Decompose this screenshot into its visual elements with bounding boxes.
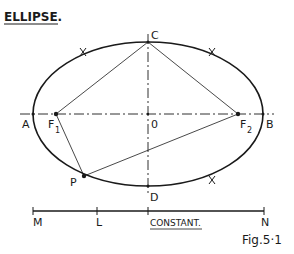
label-o: 0 (151, 118, 158, 131)
point-b-dot (262, 113, 265, 116)
constant-caption: CONSTANT. (150, 218, 201, 228)
center-o-dot (147, 113, 149, 115)
label-f2-subscript: 2 (247, 126, 252, 135)
line-f2-c (148, 42, 238, 114)
line-f2-p (84, 114, 238, 176)
label-b: B (266, 118, 274, 131)
label-f1: F (48, 118, 54, 131)
point-a-dot (32, 113, 35, 116)
label-f2: F (240, 118, 246, 131)
diagram-title: ELLIPSE. (4, 10, 62, 24)
label-c: C (151, 29, 159, 42)
focus-f1-dot (54, 112, 58, 116)
point-d-dot (147, 185, 150, 188)
label-a: A (22, 118, 30, 131)
label-n: N (261, 216, 269, 229)
cross-mark-icon (209, 176, 215, 184)
figure-caption: Fig.5·1 (242, 233, 282, 247)
label-f1-subscript: 1 (55, 126, 60, 135)
point-c-dot (147, 41, 150, 44)
focus-f2-dot (236, 112, 240, 116)
label-d: D (150, 191, 158, 204)
label-l: L (96, 216, 103, 229)
point-p-dot (82, 174, 86, 178)
label-m: M (33, 216, 43, 229)
ellipse-diagram: ELLIPSE. C A B 0 D P F 1 F 2 M L N CONST… (0, 0, 294, 254)
label-p: P (70, 176, 77, 189)
line-f1-c (56, 42, 148, 114)
